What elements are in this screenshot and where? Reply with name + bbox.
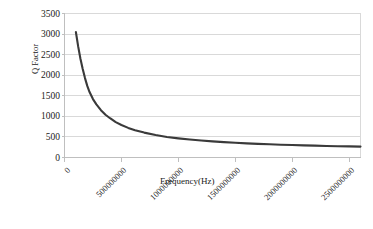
y-axis-tick-label: 3000 xyxy=(26,29,60,39)
axis-lines xyxy=(65,14,361,158)
y-axis-tick-label: 2000 xyxy=(26,70,60,80)
gridlines xyxy=(65,14,361,158)
x-axis-tick-marks xyxy=(65,158,350,162)
y-axis-tick-label: 1000 xyxy=(26,111,60,121)
x-axis-title: Frequency(Hz) xyxy=(160,176,214,186)
y-axis-tick-label: 500 xyxy=(26,132,60,142)
chart-container: Q Factor 0500100015002000250030003500 05… xyxy=(0,0,373,229)
y-axis-tick-label: 0 xyxy=(26,153,60,163)
y-axis-tick-label: 3500 xyxy=(26,9,60,19)
y-axis-tick-label: 2500 xyxy=(26,50,60,60)
y-axis-tick-label: 1500 xyxy=(26,91,60,101)
y-axis-tick-labels: 0500100015002000250030003500 xyxy=(26,0,60,229)
data-series-line xyxy=(76,32,361,147)
